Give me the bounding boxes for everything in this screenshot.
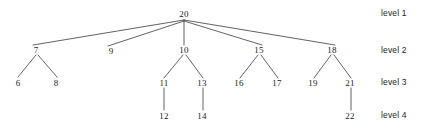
tree-node-16: 16 xyxy=(234,79,243,88)
tree-node-13: 13 xyxy=(197,79,206,88)
tree-edge xyxy=(164,55,183,78)
tree-node-9: 9 xyxy=(109,47,114,56)
tree-edge xyxy=(240,55,258,78)
level-label-3: level 3 xyxy=(381,78,407,87)
level-label-4: level 4 xyxy=(381,111,407,120)
tree-node-14: 14 xyxy=(197,112,206,121)
tree-node-17: 17 xyxy=(272,79,281,88)
tree-edge xyxy=(18,55,36,77)
tree-node-22: 22 xyxy=(345,112,354,121)
tree-node-20: 20 xyxy=(179,10,188,19)
tree-node-11: 11 xyxy=(159,79,168,88)
tree-edge xyxy=(261,55,278,78)
tree-edge xyxy=(33,20,184,45)
tree-edge xyxy=(184,20,335,45)
tree-edge xyxy=(108,21,184,46)
tree-edge xyxy=(186,55,203,78)
tree-node-19: 19 xyxy=(308,79,317,88)
tree-node-7: 7 xyxy=(34,46,39,55)
level-label-1: level 1 xyxy=(381,9,407,18)
tree-edge xyxy=(314,55,331,78)
tree-node-12: 12 xyxy=(159,112,168,121)
tree-edge xyxy=(38,55,57,77)
tree-node-8: 8 xyxy=(54,79,59,88)
level-label-2: level 2 xyxy=(381,46,407,55)
tree-node-6: 6 xyxy=(16,79,21,88)
tree-node-10: 10 xyxy=(179,46,188,55)
tree-node-18: 18 xyxy=(327,46,336,55)
tree-diagram: 207910151868111316171921121422 level 1le… xyxy=(0,0,427,131)
tree-node-21: 21 xyxy=(345,79,354,88)
tree-node-15: 15 xyxy=(254,46,263,55)
tree-edge xyxy=(184,21,262,45)
tree-edge xyxy=(334,55,351,78)
tree-edge-layer xyxy=(0,0,427,131)
